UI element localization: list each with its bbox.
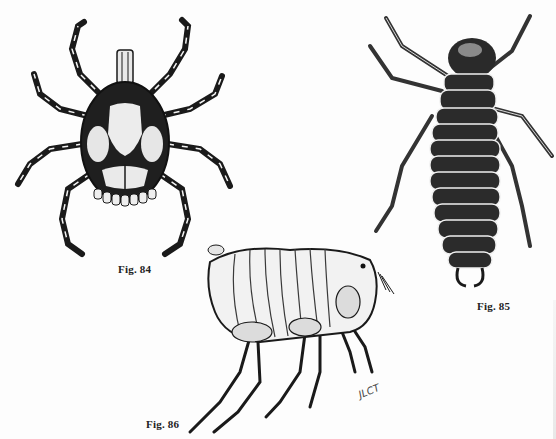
figure-caption-86: Fig. 86 — [146, 418, 179, 430]
figure-caption-85: Fig. 85 — [477, 300, 510, 312]
figure-caption-84: Fig. 84 — [118, 263, 151, 275]
tick-illustration — [10, 14, 240, 264]
flea-illustration — [180, 232, 400, 437]
illustration-plate: Fig. 84 — [0, 0, 556, 439]
